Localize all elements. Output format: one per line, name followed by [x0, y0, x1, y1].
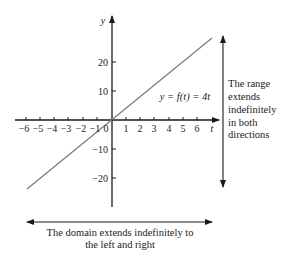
x-tick-label: −2 [76, 123, 87, 134]
x-tick-label: 6 [195, 123, 200, 134]
x-axis-label: t [211, 123, 214, 134]
domain-note-line: the left and right [85, 239, 155, 250]
function-diagram: −6 −5 −4 −3 −2 −1 0 1 2 3 4 5 6 20 10 −1… [0, 0, 285, 258]
range-note-line: indefinitely [228, 104, 277, 115]
x-tick-label: −1 [90, 123, 101, 134]
domain-note-line: The domain extends indefinitely to [47, 227, 194, 238]
range-note-line: directions [228, 129, 269, 140]
x-tick-label: 0 [104, 123, 109, 134]
range-note: The range extends indefinitely in both d… [228, 78, 277, 140]
x-tick-label: 2 [138, 123, 143, 134]
x-tick-labels: −6 −5 −4 −3 −2 −1 0 1 2 3 4 5 6 [19, 123, 200, 134]
range-note-line: in both [228, 117, 258, 128]
y-tick-label: 20 [98, 57, 108, 68]
y-tick-label: 10 [98, 86, 108, 97]
x-tick-label: −5 [33, 123, 44, 134]
range-note-line: The range [228, 78, 271, 89]
x-tick-label: −6 [19, 123, 30, 134]
x-tick-label: −4 [47, 123, 58, 134]
x-tick-label: 4 [167, 123, 172, 134]
x-tick-label: −3 [61, 123, 72, 134]
domain-note: The domain extends indefinitely to the l… [47, 227, 194, 250]
y-axis-label: y [100, 15, 106, 26]
function-line [27, 38, 212, 189]
x-tick-label: 5 [181, 123, 186, 134]
y-tick-label: −20 [92, 173, 108, 184]
equation-label: y = f(t) = 4t [159, 91, 211, 103]
y-tick-label: −10 [92, 144, 108, 155]
x-tick-label: 1 [124, 123, 129, 134]
range-note-line: extends [228, 91, 260, 102]
x-tick-label: 3 [152, 123, 157, 134]
